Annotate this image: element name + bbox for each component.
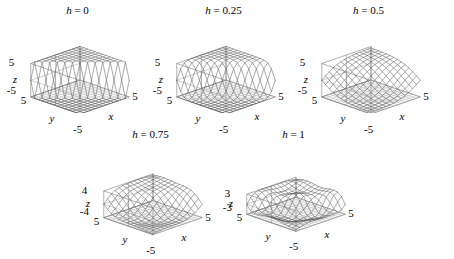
y-axis-max-label: 5 [167, 95, 173, 106]
x-axis-max-label: 5 [132, 91, 138, 102]
panel-title-variable: h [66, 4, 72, 16]
z-axis-max-label: 4 [82, 185, 88, 196]
x-axis-max-label: 5 [423, 91, 429, 102]
x-axis-label: x [109, 111, 114, 122]
surface-panel-1: h = 13z-35y-5x5 [222, 128, 365, 243]
panel-title-equals: = [361, 4, 367, 16]
panel-title-value: 0.5 [370, 4, 384, 16]
z-axis-min-label: -4 [80, 206, 89, 217]
panel-title-value: 0.75 [149, 128, 168, 140]
panel-title: h = 0.25 [152, 4, 295, 16]
panel-title: h = 0.5 [297, 4, 440, 16]
y-axis-label: y [340, 113, 345, 124]
panel-title-value: 0 [83, 4, 89, 16]
panel-title-equals: = [74, 4, 80, 16]
x-axis-label: x [400, 111, 405, 122]
y-axis-label: y [265, 231, 270, 242]
x-axis-label: x [255, 111, 260, 122]
plot-area [166, 18, 286, 113]
surface-panel-0-25: h = 0.255z-55y-5x5 [152, 4, 295, 119]
z-axis-min-label: -5 [7, 85, 16, 96]
x-axis-label: x [182, 232, 187, 243]
panel-title: h = 0 [6, 4, 149, 16]
panel-title-equals: = [290, 128, 296, 140]
x-axis-min-label: -5 [289, 241, 298, 252]
plot-area [20, 18, 140, 113]
y-axis-max-label: 5 [94, 216, 100, 227]
surface-panel-0-5: h = 0.55z-55y-5x5 [297, 4, 440, 119]
panel-title-variable: h [205, 4, 211, 16]
panel-title: h = 0.75 [79, 128, 222, 140]
y-axis-label: y [49, 113, 54, 124]
z-axis-min-label: -3 [223, 202, 232, 213]
panel-title: h = 1 [222, 128, 365, 140]
y-axis-label: y [195, 113, 200, 124]
panel-title-variable: h [132, 128, 138, 140]
plot-area [93, 142, 213, 237]
surface-plot-figure: h = 05z-55y-5x5h = 0.255z-55y-5x5h = 0.5… [0, 0, 454, 259]
x-axis-min-label: -5 [364, 124, 373, 135]
x-axis-label: x [325, 229, 330, 240]
z-axis-min-label: -5 [298, 85, 307, 96]
z-axis-max-label: 5 [155, 57, 161, 68]
plot-area [236, 142, 356, 237]
z-axis-min-label: -5 [153, 85, 162, 96]
z-axis-max-label: 5 [9, 57, 15, 68]
panel-title-equals: = [214, 4, 220, 16]
x-axis-max-label: 5 [278, 91, 284, 102]
x-axis-min-label: -5 [146, 245, 155, 256]
x-axis-max-label: 5 [205, 212, 211, 223]
panel-title-equals: = [141, 128, 147, 140]
y-axis-label: y [122, 234, 127, 245]
panel-title-variable: h [353, 4, 359, 16]
y-axis-max-label: 5 [312, 95, 318, 106]
plot-area [311, 18, 431, 113]
panel-title-value: 1 [299, 128, 305, 140]
y-axis-max-label: 5 [21, 95, 27, 106]
y-axis-max-label: 5 [237, 212, 243, 223]
panel-title-value: 0.25 [222, 4, 241, 16]
surface-panel-0: h = 05z-55y-5x5 [6, 4, 149, 119]
panel-title-variable: h [282, 128, 288, 140]
z-axis-max-label: 5 [300, 57, 306, 68]
surface-panel-0-75: h = 0.754z-45y-5x5 [79, 128, 222, 243]
x-axis-max-label: 5 [348, 208, 354, 219]
